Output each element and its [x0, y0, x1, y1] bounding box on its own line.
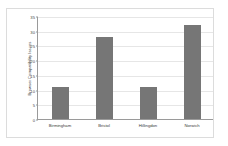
bar	[184, 25, 201, 119]
bar	[140, 87, 157, 119]
y-tick-label: 35	[30, 15, 35, 20]
bar-slot: Bristol	[82, 17, 126, 119]
y-tick-label: 0	[33, 118, 35, 123]
y-tick-label: 10	[30, 88, 35, 93]
y-tick-label: 30	[30, 29, 35, 34]
x-tick-label: Norwich	[184, 123, 199, 128]
y-tick-label: 25	[30, 44, 35, 49]
bar	[52, 87, 69, 119]
x-tick-label: Birmingham	[49, 123, 71, 128]
bar	[96, 37, 113, 119]
bar-slot: Hillingdon	[126, 17, 170, 119]
plot-area: Browser Compatibility Issues 35302520151…	[37, 17, 213, 120]
y-tick-label: 15	[30, 73, 35, 78]
y-tick-mark	[36, 120, 38, 121]
bar-slot: Norwich	[170, 17, 214, 119]
y-tick-label: 5	[33, 103, 35, 108]
x-tick-label: Bristol	[98, 123, 110, 128]
bar-slot: Birmingham	[38, 17, 82, 119]
bar-chart-figure: Browser Compatibility Issues 35302520151…	[0, 0, 228, 146]
y-tick-label: 20	[30, 59, 35, 64]
x-tick-label: Hillingdon	[139, 123, 157, 128]
